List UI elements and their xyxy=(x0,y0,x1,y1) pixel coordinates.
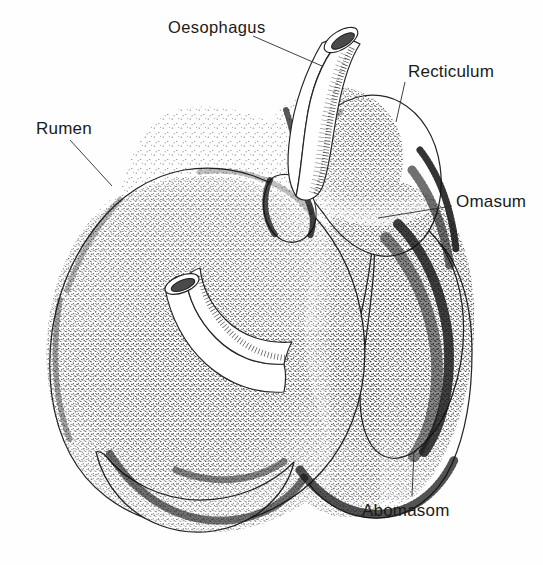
figure-root: p p g xyxy=(0,0,543,565)
label-oesophagus: Oesophagus xyxy=(168,18,266,36)
label-abomasom: Abomasom xyxy=(362,501,450,520)
ruminant-stomach-illustration: Oesophagus Recticulum Rumen Omasum Aboma… xyxy=(0,0,543,565)
label-recticulum: Recticulum xyxy=(408,62,494,81)
label-rumen: Rumen xyxy=(36,119,92,138)
label-omasum: Omasum xyxy=(456,192,526,211)
